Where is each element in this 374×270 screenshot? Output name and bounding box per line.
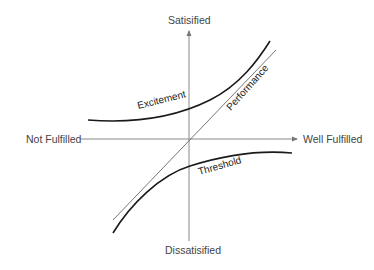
satisfied-label: Satisified — [168, 14, 211, 26]
not-fulfilled-label: Not Fulfilled — [26, 133, 81, 145]
kano-diagram: Satisified Dissatisified Not Fulfilled W… — [0, 0, 374, 270]
excitement-curve — [88, 41, 270, 121]
dissatisfied-label: Dissatisified — [165, 244, 221, 256]
well-fulfilled-label: Well Fulfilled — [303, 133, 362, 145]
